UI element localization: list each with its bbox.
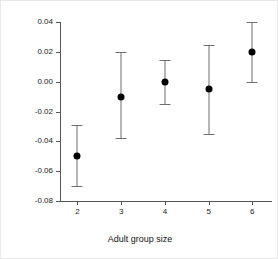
y-tick-mark — [56, 201, 60, 202]
y-axis-line — [60, 22, 61, 201]
error-bar-cap-lower — [203, 134, 214, 135]
data-point — [118, 93, 125, 100]
y-tick-label: 0.04 — [37, 18, 53, 26]
data-point — [205, 86, 212, 93]
x-tick-mark — [121, 201, 122, 205]
y-tick-label: -0.06 — [35, 167, 53, 175]
x-tick-mark — [77, 201, 78, 205]
y-tick-mark — [56, 52, 60, 53]
data-point — [249, 48, 256, 55]
data-point — [74, 153, 81, 160]
y-tick-label: -0.08 — [35, 197, 53, 205]
error-bar-cap-upper — [72, 125, 83, 126]
chart-figure: 0.040.020.00-0.02-0.04-0.06-0.08 23456 P… — [0, 0, 278, 259]
error-bar-cap-upper — [247, 22, 258, 23]
y-tick-label: -0.02 — [35, 108, 53, 116]
y-tick-label: 0.02 — [37, 48, 53, 56]
x-tick-mark — [252, 201, 253, 205]
error-bar-cap-upper — [116, 52, 127, 53]
data-point — [161, 78, 168, 85]
plot-area: 0.040.020.00-0.02-0.04-0.06-0.08 23456 — [60, 22, 272, 201]
y-tick-mark — [56, 171, 60, 172]
error-bar-cap-upper — [203, 45, 214, 46]
x-tick-label: 5 — [206, 208, 210, 216]
x-tick-label: 4 — [163, 208, 167, 216]
y-tick-mark — [56, 22, 60, 23]
x-axis-label: Adult group size — [1, 234, 278, 244]
error-bar-cap-lower — [159, 104, 170, 105]
error-bar-cap-upper — [159, 60, 170, 61]
x-tick-label: 2 — [75, 208, 79, 216]
error-bar-cap-lower — [247, 82, 258, 83]
y-tick-mark — [56, 112, 60, 113]
y-tick-label: -0.04 — [35, 137, 53, 145]
y-tick-mark — [56, 82, 60, 83]
x-tick-mark — [209, 201, 210, 205]
error-bar-cap-lower — [72, 186, 83, 187]
x-tick-label: 3 — [119, 208, 123, 216]
error-bar-cap-lower — [116, 138, 127, 139]
x-axis-line — [60, 201, 272, 202]
y-tick-label: 0.00 — [37, 78, 53, 86]
x-tick-mark — [165, 201, 166, 205]
y-tick-mark — [56, 141, 60, 142]
x-tick-label: 6 — [250, 208, 254, 216]
